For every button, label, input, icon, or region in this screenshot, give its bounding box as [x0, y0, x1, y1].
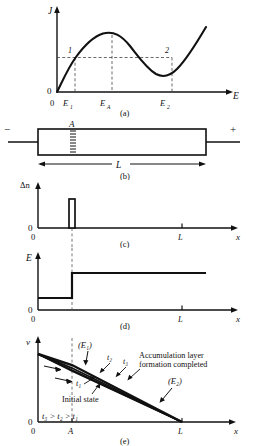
panel-c-origin-axis-label: 0 — [31, 232, 35, 242]
panel-e-label-t3: t₃ — [123, 357, 128, 366]
panel-e-leader-accumulation-arrowhead — [127, 375, 132, 381]
panel-a-tick-e2-base: E — [159, 98, 166, 108]
panel-e-origin-axis-label: 0 — [31, 426, 35, 436]
panel-a-x-arrowhead — [226, 89, 233, 95]
panel-b-left-terminal-sign: − — [4, 123, 10, 135]
panel-e-y-axis-label: v — [26, 337, 30, 347]
panel-d-y-axis-label: E — [25, 253, 32, 263]
panel-d-plot: L E x 0 0 (d) — [0, 248, 254, 330]
panel-a-tick-ea-base: E — [99, 98, 106, 108]
panel-e-tag: (e) — [120, 436, 130, 446]
panel-c-plot: L Δn x 0 0 (c) — [0, 180, 254, 248]
panel-b-length-label: L — [115, 160, 121, 170]
panel-c-x-arrowhead — [231, 225, 238, 231]
panel-e-accumulation-line2: formation completed — [139, 360, 207, 369]
panel-b-length-arrow-left — [38, 161, 45, 166]
panel-c-y-axis-label: Δn — [20, 180, 30, 190]
panel-e-time-order-label: t₃ > t₂ > t₁ — [42, 411, 78, 421]
panel-a-point-1-label: 1 — [68, 46, 72, 55]
panel-e-label-t3-group: t₃ — [116, 357, 129, 377]
panel-c-x-axis-label: x — [235, 232, 240, 242]
panel-c-tick-l-label: L — [177, 232, 183, 242]
panel-e-leader-t1 — [84, 379, 92, 384]
panel-e-label-e2: (E₂) — [168, 376, 182, 386]
panel-b: − + A L (b) — [0, 118, 254, 180]
panel-a-origin-axis-label: 0 — [50, 98, 54, 108]
panel-d-tick-l-label: L — [177, 314, 183, 324]
panel-e-label-t2-group: t₂ — [100, 353, 113, 373]
panel-a-point-2-label: 2 — [165, 46, 169, 55]
panel-e-x-axis-label: x — [233, 426, 238, 436]
panel-e-label-t1: t₁ — [76, 379, 81, 388]
panel-e-leader-accumulation — [130, 369, 140, 378]
panel-c: L Δn x 0 0 (c) — [0, 180, 254, 248]
panel-a-tick-ea-sub: A — [106, 104, 111, 110]
panel-a-tick-e1-base: E — [62, 98, 69, 108]
panel-b-length-arrow-right — [199, 161, 206, 166]
panel-e-label-e1: (E₁) — [78, 340, 92, 350]
panel-e-x-arrowhead — [229, 419, 236, 425]
panel-a-plot: 1 2 J E 0 0 E 1 E A E 2 (a) — [0, 0, 254, 118]
panel-e-leader-e1-arrowhead — [83, 360, 88, 366]
panel-a-je-curve — [57, 27, 206, 92]
panel-e-tick-l-label: L — [177, 426, 183, 436]
panel-c-carrier-spike — [69, 199, 75, 228]
panel-e-plot: (E₁) (E₂) t₂ t₃ t₁ — [0, 330, 254, 446]
panel-a-tick-e2-sub: 2 — [167, 104, 170, 110]
panel-e-initial-state-label: Initial state — [62, 395, 99, 404]
panel-e-leader-e2 — [162, 388, 172, 400]
panel-e-tick-a-label: A — [67, 426, 74, 436]
panel-c-tag: (c) — [120, 239, 130, 248]
panel-a-tag: (a) — [120, 108, 130, 118]
panel-d-x-axis-label: x — [235, 314, 240, 324]
panel-b-notch-label: A — [68, 119, 75, 129]
panel-c-y-axis-label-group: Δn — [20, 180, 30, 190]
panel-b-right-terminal-sign: + — [230, 123, 236, 135]
panel-e-leader-initial-arrowhead — [95, 383, 100, 388]
panel-c-y-arrowhead — [35, 182, 41, 189]
panel-e-y-arrowhead — [35, 336, 41, 343]
panel-d: L E x 0 0 (d) — [0, 248, 254, 330]
panel-d-origin-axis-label: 0 — [31, 314, 35, 324]
panel-b-tag: (b) — [120, 171, 130, 180]
panel-a-tick-e1-sub: 1 — [70, 104, 73, 110]
panel-a-tick-ea: E A — [99, 98, 111, 110]
panel-e: (E₁) (E₂) t₂ t₃ t₁ — [0, 330, 254, 446]
panel-d-tag: (d) — [120, 321, 130, 330]
panel-e-label-t2: t₂ — [107, 353, 112, 362]
panel-d-field-step-curve — [38, 273, 206, 298]
panel-a-origin-label: 0 — [47, 86, 52, 96]
panel-a: 1 2 J E 0 0 E 1 E A E 2 (a) — [0, 0, 254, 118]
figure-root: 1 2 J E 0 0 E 1 E A E 2 (a) — [0, 0, 254, 446]
panel-d-x-arrowhead — [231, 307, 238, 313]
panel-d-y-arrowhead — [35, 252, 41, 259]
panel-b-semiconductor-bar — [38, 129, 206, 155]
panel-e-accumulation-line1: Accumulation layer — [139, 351, 204, 360]
panel-a-tick-e1: E 1 — [62, 98, 73, 110]
panel-a-y-arrowhead — [54, 6, 60, 13]
panel-b-diagram: − + A L (b) — [0, 118, 254, 180]
panel-a-y-axis-label: J — [48, 6, 53, 16]
panel-a-x-axis-label: E — [232, 91, 239, 101]
panel-a-tick-e2: E 2 — [159, 98, 170, 110]
